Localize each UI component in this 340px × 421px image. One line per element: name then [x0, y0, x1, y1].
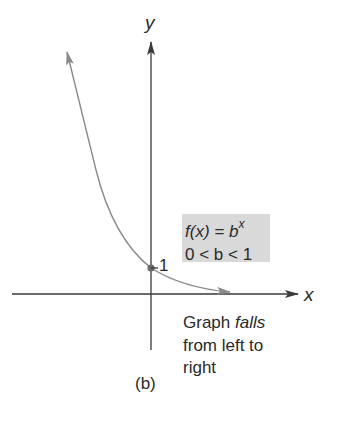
base-condition: 0 < b < 1 [185, 243, 270, 266]
equation-exponent: x [238, 217, 244, 231]
desc-line-2: from left to [183, 335, 333, 358]
desc-line-3: right [183, 357, 333, 380]
desc-graph: Graph [183, 313, 235, 332]
y-axis-label: y [145, 12, 155, 34]
behavior-description: Graph falls from left to right [183, 312, 333, 380]
x-axis-label: x [304, 284, 314, 306]
function-equation: f(x) = bx [185, 215, 270, 243]
equation-lhs: f(x) = b [185, 222, 238, 241]
function-label-box: f(x) = bx 0 < b < 1 [182, 214, 270, 262]
desc-falls: falls [235, 313, 265, 332]
figure-caption: (b) [135, 374, 156, 394]
curve-left-branch [67, 52, 151, 268]
y-intercept-label: 1 [159, 256, 168, 276]
